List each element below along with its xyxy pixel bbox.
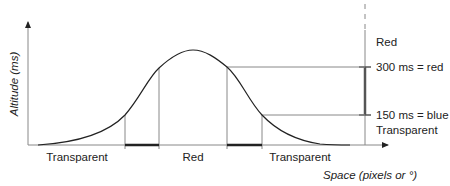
right-label-150ms: 150 ms = blue bbox=[376, 109, 449, 121]
y-axis-label: Altitude (ms) bbox=[8, 52, 20, 118]
altitude-curve bbox=[38, 50, 350, 145]
x-axis-label-text: Space (pixels or °) bbox=[323, 169, 417, 181]
x-axis-label: Space (pixels or °) bbox=[323, 169, 417, 181]
right-label-300ms: 300 ms = red bbox=[376, 61, 443, 73]
altitude-threshold-diagram: Altitude (ms) Transparent Red Transparen… bbox=[0, 0, 450, 186]
region-label-right: Transparent bbox=[269, 151, 331, 163]
region-label-left: Transparent bbox=[46, 151, 108, 163]
right-label-transparent: Transparent bbox=[376, 124, 438, 136]
right-label-red: Red bbox=[376, 36, 397, 48]
region-label-center: Red bbox=[182, 151, 203, 163]
